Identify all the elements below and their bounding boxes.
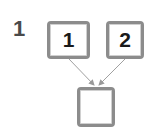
part-box-1: 1 bbox=[47, 21, 90, 59]
part-box-2: 2 bbox=[106, 21, 144, 59]
arrow-left bbox=[69, 59, 94, 85]
arrow-right bbox=[99, 59, 125, 85]
whole-answer-box[interactable] bbox=[77, 87, 115, 127]
